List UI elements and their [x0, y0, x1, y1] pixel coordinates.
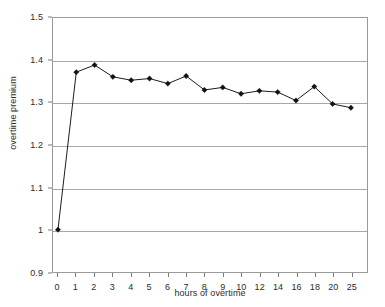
x-tick-mark-6 — [168, 273, 169, 277]
data-point-10 — [238, 91, 243, 96]
x-tick-mark-1 — [75, 273, 76, 277]
y-tick-label-1.5: 1.5 — [30, 12, 43, 22]
data-point-25 — [348, 105, 353, 110]
y-tick-label-1: 1 — [38, 225, 43, 235]
y-tick-label-1.2: 1.2 — [30, 140, 43, 150]
x-tick-mark-3 — [112, 273, 113, 277]
data-point-3 — [110, 74, 115, 79]
data-point-0 — [55, 227, 60, 232]
x-tick-mark-20 — [333, 273, 334, 277]
series-markers — [55, 62, 353, 232]
y-axis-title: overtime premium — [8, 28, 18, 198]
chart-figure: 1.51.41.31.21.110.9 overtime premium 012… — [0, 0, 385, 307]
x-tick-mark-7 — [186, 273, 187, 277]
y-tick-label-1.1: 1.1 — [30, 183, 43, 193]
x-tick-mark-5 — [149, 273, 150, 277]
x-tick-mark-10 — [241, 273, 242, 277]
y-tick-label-0.9: 0.9 — [30, 268, 43, 278]
x-tick-mark-16 — [297, 273, 298, 277]
x-tick-mark-25 — [352, 273, 353, 277]
series-overtime-premium — [53, 18, 367, 272]
data-point-6 — [165, 81, 170, 86]
plot-area — [52, 17, 368, 273]
x-tick-mark-9 — [223, 273, 224, 277]
data-point-9 — [220, 85, 225, 90]
data-point-5 — [147, 76, 152, 81]
data-point-14 — [275, 89, 280, 94]
x-tick-mark-8 — [204, 273, 205, 277]
x-tick-mark-18 — [315, 273, 316, 277]
x-tick-mark-14 — [278, 273, 279, 277]
y-tick-label-1.3: 1.3 — [30, 97, 43, 107]
x-tick-mark-4 — [131, 273, 132, 277]
y-tick-label-1.4: 1.4 — [30, 55, 43, 65]
data-point-1 — [74, 70, 79, 75]
data-point-12 — [257, 88, 262, 93]
data-point-4 — [129, 78, 134, 83]
x-tick-mark-2 — [94, 273, 95, 277]
x-tick-mark-0 — [57, 273, 58, 277]
data-point-2 — [92, 62, 97, 67]
x-tick-mark-12 — [260, 273, 261, 277]
x-axis-title: hours of overtime — [52, 288, 368, 298]
